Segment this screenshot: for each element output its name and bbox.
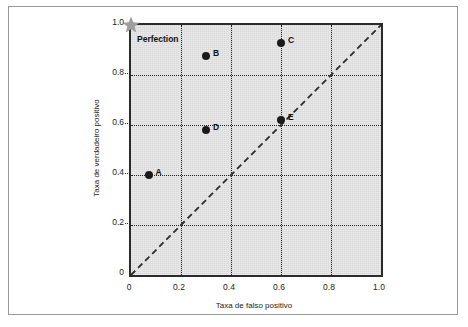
data-point-marker (277, 39, 285, 47)
x-tick-label: 1.0 (373, 283, 385, 292)
data-point-marker (277, 116, 285, 124)
x-tick-label: 0.8 (323, 283, 335, 292)
plot-background-texture (131, 25, 381, 275)
gridline-horizontal (131, 225, 381, 226)
x-axis-title: Taxa de falso positivo (129, 302, 379, 310)
y-tick-label: 0.2 (112, 218, 124, 227)
x-tick-label: 0.4 (223, 283, 235, 292)
gridline-horizontal (131, 175, 381, 176)
plot-area: ABCDE Perfection (129, 23, 383, 277)
data-point-label: B (213, 49, 219, 58)
gridline-horizontal (131, 75, 381, 76)
y-tick-mark (125, 173, 130, 174)
y-tick-mark (125, 73, 130, 74)
data-point-label: A (156, 168, 162, 177)
x-tick-label: 0 (127, 283, 132, 292)
chance-diagonal-line (131, 25, 381, 275)
data-point-label: C (288, 36, 294, 45)
y-tick-label: 0.4 (112, 168, 124, 177)
gridline-vertical (281, 25, 282, 275)
y-tick-mark (125, 123, 130, 124)
gridline-horizontal (131, 125, 381, 126)
x-tick-label: 0.6 (273, 283, 285, 292)
data-point-marker (145, 171, 153, 179)
y-tick-mark (125, 223, 130, 224)
y-tick-label: 1.0 (112, 18, 124, 27)
x-axis-tick-labels: 00.20.40.60.81.0 (129, 283, 379, 297)
y-tick-label: 0.8 (112, 68, 124, 77)
y-axis-tick-labels: 00.20.40.60.81.0 (105, 23, 124, 273)
gridline-vertical (231, 25, 232, 275)
x-tick-label: 0.2 (173, 283, 185, 292)
figure-frame: ABCDE Perfection 00.20.40.60.81.0 Taxa d… (8, 6, 458, 315)
y-tick-label: 0 (119, 268, 124, 277)
y-axis-title: Taxa de verdadeiro positivo (93, 23, 105, 273)
data-point-marker (202, 52, 210, 60)
gridline-vertical (181, 25, 182, 275)
gridline-vertical (331, 25, 332, 275)
y-tick-label: 0.6 (112, 118, 124, 127)
perfection-label: Perfection (137, 35, 179, 44)
data-point-marker (202, 126, 210, 134)
data-point-label: D (213, 123, 219, 132)
data-point-label: E (288, 113, 294, 122)
